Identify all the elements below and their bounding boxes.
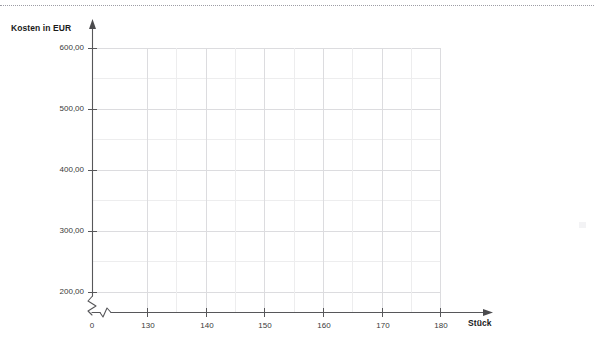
x-axis-line — [92, 308, 484, 317]
x-tick-label-150: 150 — [245, 321, 285, 330]
y-tick-label-300: 300,00 — [38, 226, 84, 235]
y-tick-label-500: 500,00 — [38, 104, 84, 113]
chart-canvas: Kosten in EUR Stück 600,00 500,00 400,00… — [0, 0, 594, 345]
y-tick-label-400: 400,00 — [38, 165, 84, 174]
scan-artifact — [579, 222, 586, 228]
coordinate-grid-plot — [0, 0, 594, 345]
x-tick-label-0: 0 — [72, 321, 112, 330]
x-tick-label-140: 140 — [187, 321, 227, 330]
y-tick-label-600: 600,00 — [38, 43, 84, 52]
x-tick-label-160: 160 — [304, 321, 344, 330]
x-tick-label-170: 170 — [363, 321, 403, 330]
x-tick-label-130: 130 — [128, 321, 168, 330]
major-horizontal-gridlines — [92, 49, 440, 293]
minor-vertical-gridlines — [177, 48, 412, 312]
x-axis-arrowhead — [483, 309, 493, 316]
x-axis-title: Stück — [468, 318, 492, 328]
y-axis-title: Kosten in EUR — [11, 23, 71, 33]
y-axis-arrowhead — [89, 19, 96, 29]
x-tick-label-180: 180 — [421, 321, 461, 330]
y-tick-label-200: 200,00 — [38, 287, 84, 296]
